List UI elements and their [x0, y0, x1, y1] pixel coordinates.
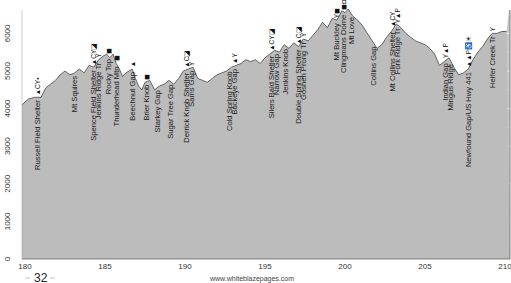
elevation-profile-chart: Russell Field Shelter▲CY▪Mt SquiresSpenc… [0, 0, 511, 283]
landmark-amenity-icons: ◼ [113, 55, 120, 61]
landmark: Mt Love [347, 17, 356, 44]
landmark-amenity-icons: Y▲P [394, 8, 401, 23]
landmark-name: Starkey Gap [153, 90, 162, 132]
landmark-name: Goshen Prong Tr [299, 42, 308, 100]
landmark-amenity-icons: Y [95, 53, 102, 58]
landmark-name: Russell Field Shelter [33, 100, 42, 170]
landmark-name: Sams Gap [187, 71, 196, 107]
landmark-name: Sugar Tree Gap [166, 85, 175, 139]
landmark-amenity-icons: ◼ [105, 48, 112, 54]
y-tick-label: 4000 [3, 99, 12, 117]
landmark: Mt Squires [70, 76, 79, 112]
x-tick-label: 185 [98, 262, 112, 271]
landmark-amenity-icons: ▲Y [231, 53, 238, 64]
x-tick-label: 210 [498, 262, 511, 271]
landmark-name: Jenkins Ridge Tr [94, 62, 103, 119]
x-tick-label: 195 [258, 262, 272, 271]
y-tick-label: 1000 [3, 212, 12, 230]
x-tick-label: 180 [18, 262, 32, 271]
footer-url: www.whiteblazepages.com [209, 275, 294, 283]
landmark-name: Fork Ridge Tr [393, 28, 402, 74]
landmark: Collins Gap [369, 46, 378, 85]
x-tick-label: 205 [418, 262, 432, 271]
landmark-amenity-icons: ▲ [129, 61, 136, 67]
landmark-amenity-icons: Y▲P [442, 43, 449, 58]
landmark-name: Thunderhead Mtn [112, 66, 121, 126]
y-tick-label: 3000 [3, 137, 12, 155]
x-tick-label: 190 [178, 262, 192, 271]
y-tick-label: 0 [3, 256, 12, 261]
y-tick-label: 2000 [3, 174, 12, 192]
page-number: 32 [34, 271, 48, 283]
landmark: Narrow Gap [272, 54, 281, 95]
landmark-name: Newfound Gap/US Hwy 441 [464, 72, 473, 167]
landmark-name: Mt Love [347, 17, 356, 44]
landmark-name: Jenkins Knob [281, 49, 290, 95]
landmark: Mingus Ridge [446, 64, 455, 110]
landmark-name: Mt Squires [70, 76, 79, 112]
landmark: Jenkins Knob [281, 49, 290, 95]
x-axis-ticks: 180185190195200205210 [18, 262, 511, 271]
landmark: Starkey Gap [153, 90, 162, 132]
landmark-amenity-icons: ◼◘Y♿P [340, 0, 348, 10]
landmark: Fork Ridge TrY▲P [393, 8, 402, 74]
landmark-name: Beechnut Gap [128, 72, 137, 121]
landmark-amenity-icons: Y [188, 61, 195, 66]
landmark-amenity-icons: ▲▲P♿☀ [465, 36, 473, 67]
landmark-name: Narrow Gap [272, 54, 281, 95]
landmark: Newfound Gap/US Hwy 441▲▲P♿☀ [464, 36, 473, 167]
landmark-amenity-icons: Y [300, 32, 307, 37]
landmark: Russell Field Shelter▲CY▪ [33, 78, 42, 170]
landmark-amenity-icons: ▲CY◪ [268, 28, 275, 50]
landmark-name: Heifer Creek Tr [488, 36, 497, 88]
landmark-name: Buckeye Gap [230, 69, 239, 115]
landmark: Buckeye Gap▲Y [230, 53, 239, 115]
landmark-amenity-icons: ▲CY▪ [34, 78, 41, 96]
landmark-name: Mingus Ridge [446, 64, 455, 110]
landmark: Sugar Tree Gap [166, 85, 175, 139]
landmark-amenity-icons: ◼ [143, 74, 150, 80]
y-tick-label: 6000 [3, 24, 12, 42]
landmark-name: Brier Knob [142, 85, 151, 121]
x-tick-label: 200 [338, 262, 352, 271]
landmark-amenity-icons: Y [489, 26, 496, 31]
landmark: Goshen Prong TrY [299, 32, 308, 100]
y-tick-label: 5000 [3, 62, 12, 80]
landmark-name: Collins Gap [369, 46, 378, 85]
